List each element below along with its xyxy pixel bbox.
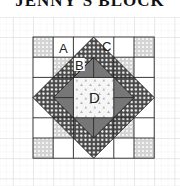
quilt-block-diagram: A B C D [0,0,180,186]
label-d: D [89,89,100,106]
label-a: A [59,41,68,56]
label-c: C [102,39,111,54]
quilt-block: A B C D [33,37,154,158]
label-b: B [75,58,84,73]
